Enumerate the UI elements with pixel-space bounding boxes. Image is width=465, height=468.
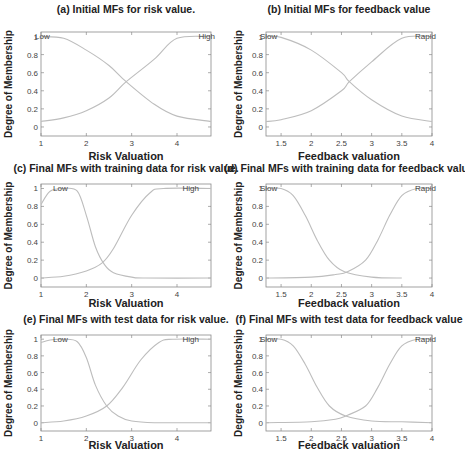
mf-label-right: Rapid [415,335,436,344]
x-axis-label: Feedback valuation [298,439,400,451]
chart-title: (f) Final MFs with test data for feedbac… [236,313,463,325]
mf-curve-rapid [266,339,432,423]
x-tick-label: 1.5 [276,434,288,443]
y-tick-label: 0 [259,419,264,428]
y-tick-label: 0.8 [252,352,264,361]
mf-curve-slow [266,339,432,423]
x-tick-label: 4 [430,434,435,443]
y-tick-label: 0.4 [252,385,264,394]
y-tick-label: 0.2 [252,402,264,411]
y-tick-label: 0.6 [252,369,264,378]
mf-label-left: Slow [260,335,278,344]
y-axis-label: Degree of Membership [233,329,244,437]
